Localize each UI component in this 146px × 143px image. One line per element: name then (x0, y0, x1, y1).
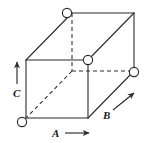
axis-label-b: B (102, 109, 110, 121)
hidden-edges-group (26, 13, 134, 118)
visible-edges-group (26, 13, 134, 118)
axis-arrow-b (113, 93, 134, 110)
lattice-site-front-bottom-left-marker (17, 117, 26, 126)
axis-arrows-group: CAB (13, 62, 134, 139)
lattice-site-back-bottom-right-marker (129, 67, 138, 76)
edge-top-left-diagonal (26, 13, 72, 60)
lattice-site-top-back-left-marker (62, 8, 71, 17)
edge-top-right-diagonal (88, 13, 134, 60)
lattice-site-front-top-right-marker (83, 55, 92, 64)
axis-label-c: C (13, 87, 21, 99)
unit-cell-diagram: CAB (0, 0, 146, 143)
crystal-unit-cell-figure: CAB (0, 0, 146, 143)
edge-bottom-right-diagonal (88, 71, 134, 118)
axis-label-a: A (51, 127, 59, 139)
edge-hidden-bottom-left-diagonal (26, 71, 72, 118)
